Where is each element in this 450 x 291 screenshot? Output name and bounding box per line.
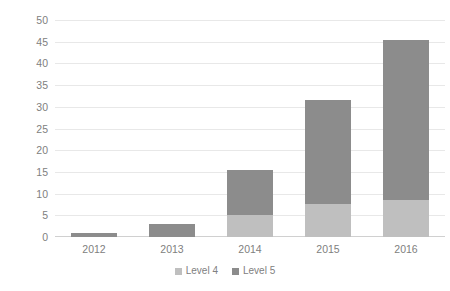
x-tick-label: 2012 (55, 241, 133, 257)
legend-item[interactable]: Level 4 (175, 265, 218, 277)
y-tick-label: 25 (8, 124, 48, 134)
bar-segment-level-5[interactable] (227, 170, 273, 216)
x-axis-ticks: 20122013201420152016 (55, 241, 445, 257)
y-tick-label: 40 (8, 58, 48, 68)
x-tick-label: 2014 (211, 241, 289, 257)
bar-group[interactable] (211, 20, 289, 237)
y-tick-label: 15 (8, 167, 48, 177)
bar-stack[interactable] (227, 170, 273, 237)
bar-segment-level-5[interactable] (383, 40, 429, 201)
bar-stack[interactable] (71, 233, 117, 237)
y-tick-label: 5 (8, 210, 48, 220)
legend-label: Level 4 (186, 265, 218, 277)
bar-stack[interactable] (305, 100, 351, 237)
y-tick-label: 10 (8, 189, 48, 199)
bar-segment-level-5[interactable] (305, 100, 351, 204)
chart-legend: Level 4Level 5 (0, 263, 450, 279)
x-tick-label: 2016 (367, 241, 445, 257)
legend-item[interactable]: Level 5 (232, 265, 275, 277)
y-tick-label: 45 (8, 37, 48, 47)
bars-layer (55, 20, 445, 237)
y-tick-label: 20 (8, 145, 48, 155)
bar-segment-level-5[interactable] (71, 233, 117, 237)
bar-segment-level-4[interactable] (305, 204, 351, 237)
x-tick-label: 2013 (133, 241, 211, 257)
bar-group[interactable] (367, 20, 445, 237)
x-tick-label: 2015 (289, 241, 367, 257)
bar-group[interactable] (289, 20, 367, 237)
legend-label: Level 5 (243, 265, 275, 277)
bar-segment-level-4[interactable] (383, 200, 429, 237)
legend-swatch-icon (175, 268, 182, 275)
y-tick-label: 50 (8, 15, 48, 25)
bar-stack[interactable] (149, 224, 195, 237)
y-tick-label: 0 (8, 232, 48, 242)
y-tick-label: 30 (8, 102, 48, 112)
bar-stack[interactable] (383, 40, 429, 237)
legend-swatch-icon (232, 268, 239, 275)
y-axis-ticks: 05101520253035404550 (0, 20, 48, 237)
bar-segment-level-4[interactable] (227, 215, 273, 237)
bar-segment-level-5[interactable] (149, 224, 195, 237)
bar-group[interactable] (55, 20, 133, 237)
bar-group[interactable] (133, 20, 211, 237)
y-tick-label: 35 (8, 80, 48, 90)
stacked-bar-chart: Number of Included Publications 05101520… (0, 0, 450, 291)
